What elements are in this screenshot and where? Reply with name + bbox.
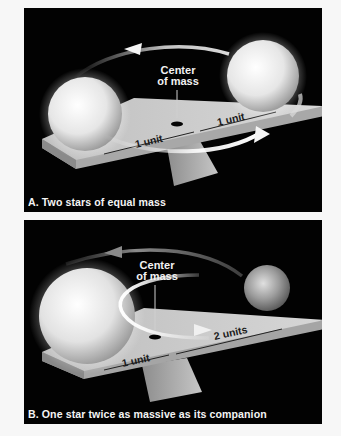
seesaw-diagram-equal-mass	[24, 8, 322, 212]
orbit-arrow-large-icon	[104, 246, 122, 258]
star-small	[244, 265, 290, 311]
panel-unequal-mass: Center of mass 1 unit 2 units B. One sta…	[24, 220, 322, 424]
center-label-line2: of mass	[134, 271, 180, 282]
center-of-mass-point	[171, 121, 183, 126]
caption: B. One star twice as massive as its comp…	[28, 408, 267, 420]
star-large	[39, 268, 135, 364]
caption: A. Two stars of equal mass	[28, 196, 166, 208]
star-right	[227, 40, 299, 112]
center-label-line2: of mass	[154, 76, 202, 87]
center-of-mass-label: Center of mass	[134, 260, 180, 282]
center-of-mass-label: Center of mass	[154, 65, 202, 87]
seesaw-diagram-unequal-mass	[24, 220, 322, 424]
panel-equal-mass: Center of mass 1 unit 1 unit A. Two star…	[24, 8, 322, 212]
